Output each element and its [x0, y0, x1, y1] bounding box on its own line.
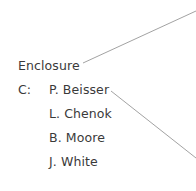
- cc-recipient: B. Moore: [49, 130, 105, 146]
- cc-label: C:: [18, 82, 31, 98]
- enclosure-label: Enclosure: [18, 58, 80, 74]
- cc-recipient: P. Beisser: [49, 82, 109, 98]
- cc-recipient: L. Chenok: [49, 106, 112, 122]
- enclosure-leader-line: [83, 11, 196, 63]
- cc-recipient: J. White: [49, 154, 98, 170]
- cc-leader-line: [111, 91, 196, 158]
